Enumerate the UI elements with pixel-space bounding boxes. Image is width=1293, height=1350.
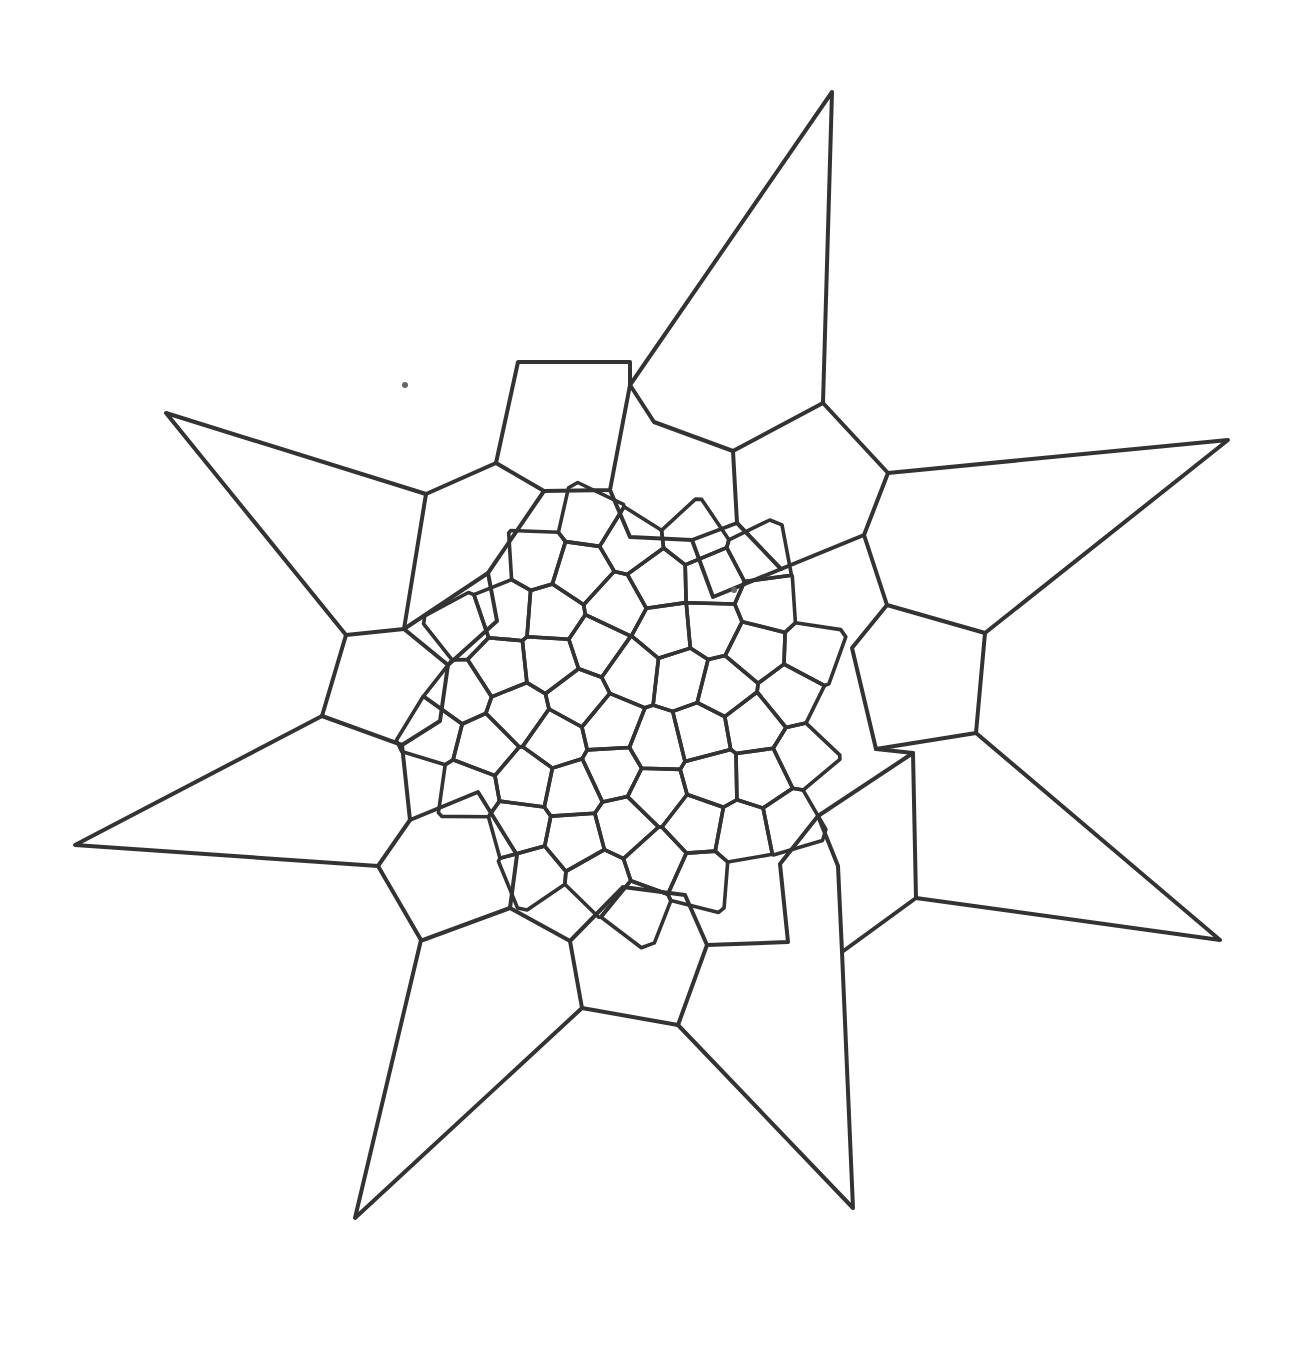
cell-edge	[423, 908, 570, 941]
spiral-cell	[423, 660, 491, 725]
spiral-cell	[736, 748, 793, 808]
spiral-cell	[686, 603, 742, 660]
spiral-cell	[784, 623, 846, 686]
spiral-cell	[668, 851, 728, 912]
spiral-cell	[773, 723, 840, 790]
star-outline-edge	[630, 92, 832, 403]
cell-edge	[630, 385, 823, 451]
star-outline-edge	[166, 413, 426, 716]
spiral-cell	[624, 827, 687, 894]
star-outline-edge	[426, 362, 630, 494]
spiral-cell	[727, 520, 792, 582]
spiral-cell	[509, 531, 566, 591]
spiral-cell	[545, 813, 605, 871]
diagram-svg	[0, 0, 1293, 1350]
spiral-cell	[582, 693, 645, 750]
spiral-cell	[495, 747, 553, 807]
spiral-cell	[396, 696, 462, 765]
spiral-cell	[565, 850, 631, 918]
spiral-cell	[584, 571, 647, 636]
ink-speck	[402, 382, 408, 388]
star-outline-edge	[916, 633, 1220, 940]
spiral-cell	[602, 636, 659, 708]
spiral-cell	[632, 603, 691, 659]
spiral-cell	[527, 584, 585, 639]
voronoi-star-diagram	[0, 0, 1293, 1350]
ink-speck	[731, 587, 737, 593]
cell-edge	[496, 385, 630, 491]
inner-spiral-cells	[396, 483, 845, 948]
star-outline	[75, 92, 1228, 1218]
cell-edge	[733, 451, 781, 569]
spiral-cell	[468, 638, 527, 697]
spiral-cell	[488, 801, 550, 858]
cell-edge	[322, 716, 410, 820]
cell-edge	[864, 535, 985, 633]
cell-edge	[346, 494, 426, 635]
spiral-cell	[697, 656, 758, 717]
cell-edge	[610, 490, 737, 540]
spiral-cell	[680, 749, 737, 807]
spiral-cell	[498, 846, 566, 910]
star-outline-edge	[355, 940, 678, 1218]
spiral-cell	[628, 768, 688, 827]
spiral-cell	[662, 795, 724, 854]
spiral-cell	[757, 664, 824, 727]
spiral-cell	[600, 507, 664, 575]
cell-edge	[818, 753, 913, 952]
star-outline-edge	[75, 716, 421, 940]
spiral-cell	[486, 683, 549, 747]
spiral-cell	[424, 593, 489, 660]
